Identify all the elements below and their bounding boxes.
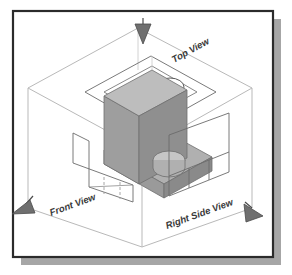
technical-drawing-figure: Top View Front View Right Side View [0, 0, 292, 275]
glass-box-projection-diagram: Top View Front View Right Side View [0, 0, 292, 275]
